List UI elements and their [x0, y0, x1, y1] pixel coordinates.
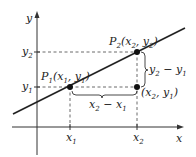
- tick-x2: x2: [133, 131, 144, 146]
- point-corner: [134, 84, 140, 90]
- label-corner: (x2, y1): [141, 86, 178, 101]
- tick-y1: y1: [21, 80, 33, 95]
- label-run: x2 − x1: [89, 98, 127, 113]
- y-axis-label: y: [25, 12, 33, 25]
- point-p1: [67, 84, 73, 90]
- run-brace: [72, 91, 137, 98]
- y-axis-arrow-icon: [35, 11, 40, 18]
- rise-brace: [141, 52, 148, 87]
- guide-lines: [37, 52, 137, 127]
- tick-y2: y2: [21, 45, 33, 60]
- label-p1: P1(x1, y1): [40, 70, 90, 85]
- ticks: [34, 52, 137, 130]
- x-axis-arrow-icon: [177, 125, 184, 130]
- label-p2: P2(x2, y2): [108, 35, 158, 50]
- label-rise: y2 − y1: [148, 63, 187, 78]
- tick-x1: x1: [66, 131, 77, 146]
- x-axis-label: x: [176, 132, 183, 145]
- slope-diagram: y x y2 y1 x1 x2 P1(x1, y1) P2(x2, y2) (x…: [0, 0, 196, 157]
